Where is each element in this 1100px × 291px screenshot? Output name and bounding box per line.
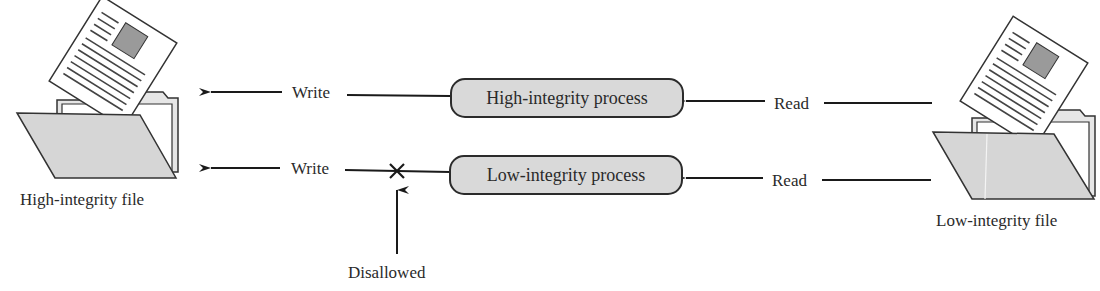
high-integrity-process-label: High-integrity process <box>486 88 647 109</box>
high-read-edge <box>686 101 932 103</box>
low-read-edge <box>686 178 931 180</box>
low-write-label: Write <box>291 160 329 177</box>
low-integrity-process-node: Low-integrity process <box>449 155 683 195</box>
high-read-label: Read <box>774 95 809 112</box>
disallowed-label: Disallowed <box>348 264 425 281</box>
low-write-edge <box>211 168 450 172</box>
low-integrity-file-icon <box>933 16 1095 199</box>
low-read-label: Read <box>772 172 807 189</box>
high-integrity-file-label: High-integrity file <box>20 191 144 208</box>
low-integrity-file-label: Low-integrity file <box>936 212 1057 229</box>
high-write-label: Write <box>292 84 330 101</box>
diagram-canvas <box>0 0 1100 291</box>
high-integrity-file-icon <box>17 0 178 178</box>
low-integrity-process-label: Low-integrity process <box>487 165 645 186</box>
high-write-edge <box>211 92 450 96</box>
high-integrity-process-node: High-integrity process <box>450 78 684 118</box>
